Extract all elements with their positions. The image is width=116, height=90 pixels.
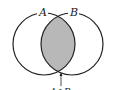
intersection-label: A∩B (49, 87, 71, 90)
set-b-label: B (69, 6, 78, 19)
set-a-label: A (38, 6, 47, 19)
venn-diagram: A B A∩B (0, 0, 116, 90)
